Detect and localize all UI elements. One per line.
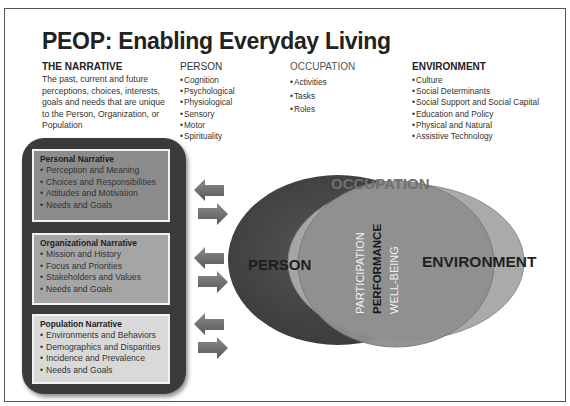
list-item: Culture xyxy=(412,75,539,86)
narrative-title: Organizational Narrative xyxy=(40,238,162,248)
list-item: Spirituality xyxy=(180,131,235,142)
list-item: Activities xyxy=(290,76,327,90)
narrative-line: perceptions, choices, interests, xyxy=(42,86,165,98)
list-item: Demographics and Disparities xyxy=(40,342,162,354)
list-item: Needs and Goals xyxy=(40,284,162,296)
narrative-title: Population Narrative xyxy=(40,319,162,329)
list-item: Choices and Responsibilities xyxy=(40,177,162,189)
narrative-line: to the Person, Organization, or xyxy=(42,109,165,121)
bidirectional-arrows-icon xyxy=(194,246,228,294)
peop-venn-diagram: OCCUPATION PERSON ENVIRONMENT PARTICIPAT… xyxy=(226,158,546,358)
person-heading: PERSON xyxy=(180,61,222,72)
well-being-label: WELL-BEING xyxy=(388,196,400,314)
narrative-panel: Personal Narrative Perception and Meanin… xyxy=(22,138,186,394)
organizational-narrative-box: Organizational Narrative Mission and His… xyxy=(32,233,170,305)
bidirectional-arrows-icon xyxy=(194,312,228,360)
person-label: PERSON xyxy=(248,256,311,273)
list-item: Perception and Meaning xyxy=(40,165,162,177)
participation-label: PARTICIPATION xyxy=(354,196,366,314)
narrative-description: The past, current and future perceptions… xyxy=(42,74,165,132)
list-item: Focus and Priorities xyxy=(40,261,162,273)
list-item: Psychological xyxy=(180,86,235,97)
narrative-title: Personal Narrative xyxy=(40,154,162,164)
list-item: Roles xyxy=(290,103,327,117)
occupation-label: OCCUPATION xyxy=(331,175,430,192)
narrative-heading: THE NARRATIVE xyxy=(42,61,122,72)
list-item: Motor xyxy=(180,120,235,131)
environment-label: ENVIRONMENT xyxy=(422,253,537,271)
list-item: Education and Policy xyxy=(412,109,539,120)
list-item: Social Determinants xyxy=(412,86,539,97)
occupation-heading: OCCUPATION xyxy=(290,61,355,72)
narrative-line: The past, current and future xyxy=(42,74,165,86)
list-item: Environments and Behaviors xyxy=(40,330,162,342)
population-narrative-box: Population Narrative Environments and Be… xyxy=(32,314,170,384)
bidirectional-arrows-icon xyxy=(194,178,228,226)
list-item: Sensory xyxy=(180,109,235,120)
list-item: Physiological xyxy=(180,97,235,108)
personal-narrative-box: Personal Narrative Perception and Meanin… xyxy=(32,149,170,222)
narrative-line: Population xyxy=(42,120,165,132)
list-item: Incidence and Prevalence xyxy=(40,353,162,365)
page-title: PEOP: Enabling Everyday Living xyxy=(42,28,391,55)
person-list: Cognition Psychological Physiological Se… xyxy=(180,75,235,142)
list-item: Social Support and Social Capital xyxy=(412,97,539,108)
list-item: Needs and Goals xyxy=(40,365,162,377)
list-item: Assistive Technology xyxy=(412,131,539,142)
list-item: Physical and Natural xyxy=(412,120,539,131)
list-item: Mission and History xyxy=(40,249,162,261)
performance-label: PERFORMANCE xyxy=(371,196,383,314)
list-item: Needs and Goals xyxy=(40,200,162,212)
list-item: Tasks xyxy=(290,90,327,104)
list-item: Cognition xyxy=(180,75,235,86)
occupation-list: Activities Tasks Roles xyxy=(290,76,327,117)
environment-heading: ENVIRONMENT xyxy=(412,61,486,72)
list-item: Stakeholders and Values xyxy=(40,272,162,284)
list-item: Attitudes and Motivation xyxy=(40,188,162,200)
environment-list: Culture Social Determinants Social Suppo… xyxy=(412,75,539,142)
narrative-line: goals and needs that are unique xyxy=(42,97,165,109)
